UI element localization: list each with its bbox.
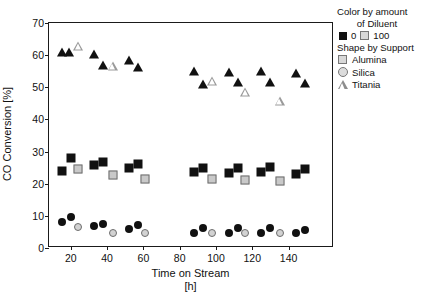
data-point-triangle-filled: [256, 67, 266, 76]
data-point-square-filled: [57, 166, 66, 175]
legend-item-alumina: Alumina: [337, 54, 431, 66]
x-tick-mark: [143, 246, 144, 250]
x-tick-mark: [289, 246, 290, 250]
legend-shape-title: Shape by Support: [337, 42, 431, 54]
data-point-square-filled: [224, 169, 233, 178]
data-point-circle-filled: [67, 213, 75, 221]
y-tick-label: 40: [32, 113, 44, 125]
data-point-triangle-open: [73, 41, 83, 50]
data-point-square-filled: [291, 170, 300, 179]
data-point-triangle-filled: [265, 77, 275, 86]
data-point-square-filled: [199, 163, 208, 172]
data-point-square-filled: [90, 161, 99, 170]
data-point-square-open: [241, 175, 250, 184]
legend-silica-label: Silica: [352, 67, 375, 79]
data-point-circle-filled: [199, 224, 207, 232]
triangle-open-icon: [337, 79, 348, 90]
legend-diluent-100-label: 100: [373, 30, 389, 42]
data-point-circle-filled: [292, 229, 300, 237]
data-point-square-filled: [233, 163, 242, 172]
y-tick-label: 70: [32, 17, 44, 29]
x-tick-mark: [216, 246, 217, 250]
y-tick-label: 20: [32, 178, 44, 190]
data-point-circle-filled: [134, 221, 142, 229]
data-point-square-filled: [266, 163, 275, 172]
y-tick-mark: [45, 23, 49, 24]
data-point-triangle-open: [240, 87, 250, 96]
data-point-triangle-filled: [133, 63, 143, 72]
x-tick-label: 80: [174, 252, 186, 264]
data-point-triangle-filled: [224, 67, 234, 76]
data-point-circle-filled: [125, 225, 133, 233]
y-tick-mark: [45, 55, 49, 56]
data-point-square-filled: [133, 159, 142, 168]
data-point-square-filled: [190, 168, 199, 177]
x-tick-label: 40: [101, 252, 113, 264]
y-axis-label: CO Conversion [%]: [1, 87, 13, 181]
y-tick-mark: [45, 119, 49, 120]
legend: Color by amount of Diluent 0 100 Shape b…: [337, 6, 431, 91]
data-point-circle-filled: [58, 218, 66, 226]
data-point-circle-filled: [301, 226, 309, 234]
x-tick-label: 120: [244, 252, 262, 264]
y-tick-label: 10: [32, 210, 44, 222]
data-point-circle-open: [109, 229, 117, 237]
data-point-circle-open: [208, 229, 216, 237]
data-point-circle-open: [74, 223, 82, 231]
y-tick-label: 60: [32, 49, 44, 61]
x-axis-label-unit: [h]: [48, 280, 333, 293]
y-tick-label: 30: [32, 146, 44, 158]
legend-diluent-row: 0 100: [337, 30, 431, 42]
x-tick-label: 140: [280, 252, 298, 264]
y-tick-mark: [45, 152, 49, 153]
data-point-triangle-filled: [89, 50, 99, 59]
data-point-circle-filled: [190, 229, 198, 237]
legend-color-title-line1: Color by amount: [337, 6, 431, 18]
y-tick-mark: [45, 216, 49, 217]
x-axis-label-text: Time on Stream: [48, 267, 333, 280]
data-point-square-filled: [99, 158, 108, 167]
data-point-square-open: [275, 177, 284, 186]
circle-open-icon: [337, 67, 348, 78]
data-point-square-open: [208, 174, 217, 183]
data-point-circle-filled: [266, 224, 274, 232]
data-point-circle-open: [241, 229, 249, 237]
y-tick-mark: [45, 248, 49, 249]
x-tick-label: 100: [207, 252, 225, 264]
x-tick-mark: [252, 246, 253, 250]
data-point-triangle-filled: [189, 66, 199, 75]
x-tick-mark: [71, 246, 72, 250]
data-point-triangle-filled: [291, 68, 301, 77]
square-open-icon: [337, 54, 348, 65]
data-point-triangle-filled: [233, 78, 243, 87]
y-tick-mark: [45, 184, 49, 185]
data-point-square-filled: [124, 163, 133, 172]
y-tick-label: 50: [32, 81, 44, 93]
legend-item-silica: Silica: [337, 67, 431, 79]
legend-color-title-line2: of Diluent: [337, 18, 431, 30]
square-filled-icon: [337, 30, 348, 41]
x-tick-label: 20: [65, 252, 77, 264]
data-point-square-open: [108, 170, 117, 179]
y-tick-mark: [45, 87, 49, 88]
data-point-circle-filled: [225, 229, 233, 237]
x-tick-mark: [107, 246, 108, 250]
data-point-square-open: [74, 165, 83, 174]
data-point-circle-open: [276, 229, 284, 237]
square-open-icon: [359, 30, 370, 41]
y-tick-label: 0: [38, 242, 44, 254]
data-point-square-filled: [300, 164, 309, 173]
x-axis-label: Time on Stream [h]: [48, 267, 333, 292]
data-point-circle-filled: [257, 229, 265, 237]
data-point-square-filled: [257, 168, 266, 177]
data-point-circle-filled: [90, 222, 98, 230]
data-point-triangle-filled: [300, 79, 310, 88]
x-tick-mark: [180, 246, 181, 250]
plot-area: 010203040506070 20406080100120140: [48, 22, 333, 247]
chart-root: 010203040506070 20406080100120140 CO Con…: [0, 0, 431, 307]
data-point-square-filled: [66, 154, 75, 163]
legend-titania-label: Titania: [352, 79, 380, 91]
legend-alumina-label: Alumina: [352, 54, 387, 66]
legend-item-titania: Titania: [337, 79, 431, 91]
data-point-circle-open: [141, 229, 149, 237]
